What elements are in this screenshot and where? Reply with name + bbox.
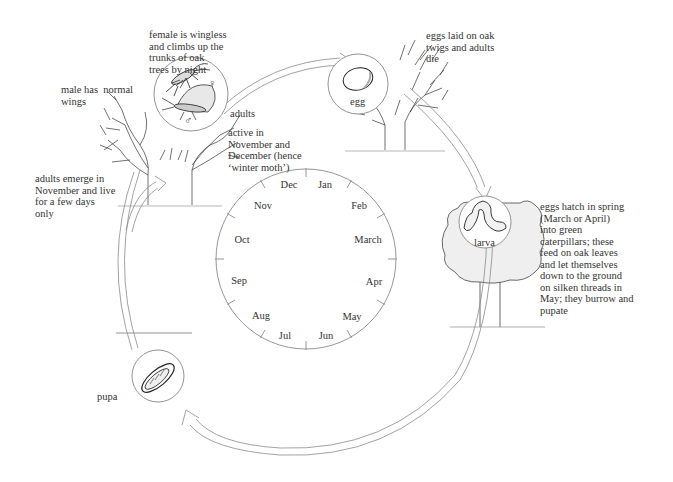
month-aug: Aug xyxy=(252,310,270,321)
annotation-eggs-laid: eggs laid on oak twigs and adults die xyxy=(426,30,495,65)
month-nov: Nov xyxy=(254,200,272,211)
stage-label-larva: larva xyxy=(474,237,495,248)
stage-pupa-circle xyxy=(132,350,184,402)
month-apr: Apr xyxy=(366,276,382,287)
calendar-wheel xyxy=(215,168,397,350)
stage-label-adults: adults xyxy=(230,108,255,119)
annotation-female: female is wingless and climbs up the tru… xyxy=(149,29,227,75)
month-jan: Jan xyxy=(318,179,332,190)
annotation-emerge: adults emerge in November and live for a… xyxy=(35,173,115,219)
stage-label-pupa: pupa xyxy=(97,391,117,402)
month-oct: Oct xyxy=(234,234,249,245)
month-jun: Jun xyxy=(319,330,334,341)
annotation-eggs-hatch: eggs hatch in spring (March or April) in… xyxy=(540,201,634,316)
month-jul: Jul xyxy=(279,330,291,341)
month-feb: Feb xyxy=(351,200,367,211)
month-dec: Dec xyxy=(281,179,298,190)
month-may: May xyxy=(342,311,361,322)
annotation-active: active in November and December (hence ‘… xyxy=(228,127,302,173)
annotation-male: male has normal wings xyxy=(61,84,133,107)
stage-label-egg: egg xyxy=(350,96,365,107)
male-symbol: ♂ xyxy=(184,114,192,126)
month-sep: Sep xyxy=(231,275,247,286)
female-symbol: ♀ xyxy=(208,77,216,89)
month-march: March xyxy=(354,234,381,245)
